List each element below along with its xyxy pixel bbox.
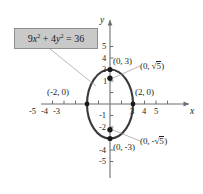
y-tick-4: 4 xyxy=(102,54,106,63)
radical-icon: √5 xyxy=(155,136,165,146)
point-label-lower-focus: (0, -√5) xyxy=(140,136,167,146)
point-label-right-vertex: (2, 0) xyxy=(135,88,154,97)
x-tick-5: 5 xyxy=(154,107,158,116)
radical-icon: √5 xyxy=(152,61,162,71)
upper-focus-prefix: (0, xyxy=(140,61,152,71)
point-label-upper-focus: (0, √5) xyxy=(140,61,164,71)
y-tick-5: 5 xyxy=(102,42,106,51)
point-label-bottom-vertex: (0, -3) xyxy=(113,143,135,152)
x-tick--4: -4 xyxy=(41,107,48,116)
x-tick--3: -3 xyxy=(53,107,60,116)
x-axis xyxy=(41,101,189,107)
y-tick-1: 1 xyxy=(103,77,107,86)
equation-text: 9x2 + 4y2 = 36 xyxy=(28,33,84,44)
y-axis xyxy=(108,20,114,178)
lower-focus-leader xyxy=(113,130,140,141)
x-tick-3: 3 xyxy=(130,107,134,116)
point-label-top-vertex: (0, 3) xyxy=(113,57,132,66)
x-tick--5: -5 xyxy=(29,107,36,116)
lower-focus-suffix: ) xyxy=(164,136,167,146)
lower-focus-prefix: (0, xyxy=(140,136,152,146)
x-axis-label: x xyxy=(190,107,194,117)
x-tick-4: 4 xyxy=(142,107,146,116)
y-tick--2: -2 xyxy=(99,123,106,132)
point-label-left-vertex: (-2, 0) xyxy=(47,88,69,97)
y-tick--5: -5 xyxy=(99,157,106,166)
y-tick-2: 2 xyxy=(102,65,106,74)
callout-leader-line xyxy=(50,49,96,86)
y-tick--1: -1 xyxy=(99,111,106,120)
upper-focus-suffix: ) xyxy=(161,61,164,71)
ellipse-graph-figure: 9x2 + 4y2 = 36 y x -5 -4 -3 3 4 5 5 4 2 … xyxy=(0,0,203,194)
y-axis-label: y xyxy=(100,16,104,26)
y-tick--4: -4 xyxy=(99,146,106,155)
equation-callout-box: 9x2 + 4y2 = 36 xyxy=(14,28,98,49)
